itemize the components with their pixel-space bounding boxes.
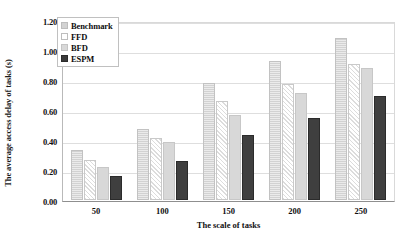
bar-group-200: [261, 24, 327, 200]
bar-espm-100: [176, 161, 188, 200]
bar-ffd-50: [84, 160, 96, 200]
legend-swatch-icon-ffd: [61, 33, 68, 40]
bar-espm-50: [110, 176, 122, 200]
bar-bfd-100: [163, 142, 175, 200]
bar-espm-200: [308, 118, 320, 200]
bar-bfd-250: [361, 68, 373, 200]
bar-benchmark-50: [71, 150, 83, 200]
legend-item-espm: ESPM: [61, 53, 113, 64]
x-axis-tick-label-100: 100: [129, 206, 195, 216]
bar-ffd-200: [282, 84, 294, 200]
legend-item-bfd: BFD: [61, 42, 113, 53]
bar-ffd-250: [348, 64, 360, 200]
bar-group-150: [196, 24, 262, 200]
legend: BenchmarkFFDBFDESPM: [57, 17, 119, 67]
bar-bfd-150: [229, 115, 241, 200]
y-axis-tick-label: 1.20: [17, 17, 57, 27]
y-axis-tick-label: 0.40: [17, 137, 57, 147]
bar-ffd-100: [150, 138, 162, 200]
bar-benchmark-250: [335, 38, 347, 200]
x-axis-tick-label-250: 250: [328, 206, 394, 216]
bar-bfd-200: [295, 93, 307, 200]
y-axis-tick-label: 0.00: [17, 197, 57, 207]
legend-item-benchmark: Benchmark: [61, 20, 113, 31]
bar-espm-150: [242, 135, 254, 200]
legend-label: Benchmark: [71, 21, 113, 31]
x-axis-tick-label-200: 200: [262, 206, 328, 216]
y-axis-tick-label: 0.60: [17, 107, 57, 117]
legend-label: FFD: [71, 32, 87, 42]
y-axis-title: The average access delay of tasks (s): [0, 0, 16, 246]
bar-chart-figure: The average access delay of tasks (s) 1.…: [0, 0, 405, 246]
y-axis-tick-label: 1.00: [17, 47, 57, 57]
legend-swatch-icon-benchmark: [61, 22, 68, 29]
legend-label: BFD: [71, 43, 88, 53]
bar-ffd-150: [216, 101, 228, 200]
bar-benchmark-100: [137, 129, 149, 200]
x-axis-tick-labels: 50100150200250: [63, 206, 394, 216]
x-axis-title: The scale of tasks: [62, 220, 395, 230]
y-axis-tick-label: 0.80: [17, 77, 57, 87]
legend-swatch-icon-espm: [61, 55, 68, 62]
legend-label: ESPM: [71, 54, 94, 64]
legend-swatch-icon-bfd: [61, 44, 68, 51]
bar-group-100: [130, 24, 196, 200]
x-axis-tick-label-50: 50: [63, 206, 129, 216]
bar-bfd-50: [97, 167, 109, 200]
bar-espm-250: [374, 96, 386, 200]
legend-item-ffd: FFD: [61, 31, 113, 42]
bar-group-250: [327, 24, 393, 200]
y-axis-tick-label: 0.20: [17, 167, 57, 177]
bar-benchmark-200: [269, 61, 281, 200]
bar-benchmark-150: [203, 83, 215, 200]
x-axis-tick-label-150: 150: [195, 206, 261, 216]
